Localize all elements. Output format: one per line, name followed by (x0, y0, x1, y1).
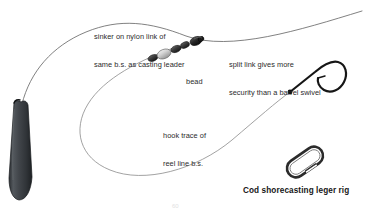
sinker-label-line-1: sinker on nylon link of (94, 32, 185, 41)
figure-canvas: sinker on nylon link of same b.s. as cas… (0, 0, 366, 214)
split-link-label-line-1: split link gives more (229, 60, 321, 69)
bead-label-line-1: bead (186, 77, 203, 86)
sinker-label-line-2: same b.s. as casting leader (94, 60, 185, 69)
sinker-label: sinker on nylon link of same b.s. as cas… (94, 13, 185, 88)
split-link-label: split link gives more security than a ba… (229, 41, 321, 116)
hook-trace-label-line-2: reel line b.s. (163, 159, 206, 168)
barrel-swivel (189, 35, 205, 48)
split-link-label-line-2: security than a barrel swivel (229, 88, 321, 97)
split-link-ring (283, 143, 326, 181)
hook-trace-label-line-1: hook trace of (163, 131, 206, 140)
hook-trace-label: hook trace of reel line b.s. (163, 112, 206, 187)
figure-caption: Cod shorecasting leger rig (243, 186, 349, 195)
torpedo-lead-sinker (9, 100, 32, 200)
bead-label: bead (186, 58, 203, 105)
page-number: 60 (172, 203, 179, 209)
